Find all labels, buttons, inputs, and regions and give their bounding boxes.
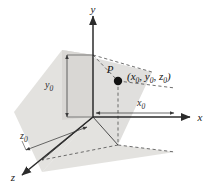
z-offset-subscript: 0 — [24, 135, 28, 144]
figure-canvas: y x z P (x0, y0, z0) x0 y0 z0 — [0, 0, 211, 186]
z-axis-label: z — [10, 171, 16, 183]
x-offset-label: x0 — [136, 97, 145, 111]
x-axis-label: x — [197, 111, 203, 123]
y-offset-subscript: 0 — [49, 84, 53, 93]
coord-close-paren: ) — [166, 70, 171, 83]
x-offset-subscript: 0 — [141, 102, 145, 111]
point-p-marker — [114, 77, 122, 85]
coordinate-system-figure: y x z P (x0, y0, z0) x0 y0 z0 — [0, 0, 211, 186]
y-axis-label: y — [90, 3, 96, 15]
shading-group — [14, 50, 175, 172]
point-p-label: P — [106, 63, 114, 75]
